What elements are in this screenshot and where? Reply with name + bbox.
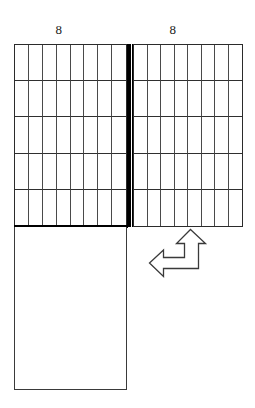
grid-cell[interactable] (43, 154, 57, 190)
grid-cell[interactable] (98, 190, 112, 226)
grid-cell[interactable] (112, 117, 126, 153)
grid-cell[interactable] (57, 117, 71, 153)
grid-cell[interactable] (175, 117, 189, 153)
up-left-double-arrow[interactable] (148, 228, 216, 282)
up-left-double-arrow-icon (148, 228, 216, 282)
grid-cell[interactable] (215, 190, 229, 226)
grid-cell[interactable] (29, 190, 43, 226)
grid-cell[interactable] (148, 154, 162, 190)
left-grid-panel[interactable] (14, 44, 127, 227)
grid-cell[interactable] (148, 81, 162, 117)
grid-cell[interactable] (175, 190, 189, 226)
grid-cell[interactable] (112, 45, 126, 81)
grid-cell[interactable] (43, 81, 57, 117)
grid-cell[interactable] (57, 190, 71, 226)
grid-cell[interactable] (134, 81, 148, 117)
grid-cell[interactable] (71, 81, 85, 117)
grid-cell[interactable] (148, 190, 162, 226)
figure-canvas: 8 8 (0, 0, 255, 408)
grid-cell[interactable] (98, 117, 112, 153)
grid-cell[interactable] (229, 154, 243, 190)
grid-cell[interactable] (112, 154, 126, 190)
grid-cell[interactable] (84, 190, 98, 226)
grid-cell[interactable] (71, 190, 85, 226)
grid-cell[interactable] (175, 81, 189, 117)
grid-cell[interactable] (134, 117, 148, 153)
grid-cell[interactable] (84, 117, 98, 153)
grid-cell[interactable] (161, 45, 175, 81)
grid-cell[interactable] (15, 154, 29, 190)
grid-cell[interactable] (215, 154, 229, 190)
grid-cell[interactable] (148, 45, 162, 81)
grid-cell[interactable] (15, 190, 29, 226)
grid-cell[interactable] (84, 45, 98, 81)
right-dimension-label: 8 (161, 22, 185, 38)
grid-cell[interactable] (29, 154, 43, 190)
grid-cell[interactable] (84, 81, 98, 117)
grid-cell[interactable] (43, 190, 57, 226)
grid-cell[interactable] (215, 81, 229, 117)
grid-cell[interactable] (161, 154, 175, 190)
grid-cell[interactable] (188, 117, 202, 153)
grid-cell[interactable] (134, 45, 148, 81)
grid-cell[interactable] (161, 81, 175, 117)
grid-cell[interactable] (71, 117, 85, 153)
grid-cell[interactable] (229, 190, 243, 226)
grid-cell[interactable] (15, 45, 29, 81)
grid-cell[interactable] (188, 154, 202, 190)
grid-cell[interactable] (29, 45, 43, 81)
grid-cell[interactable] (175, 45, 189, 81)
grid-cell[interactable] (15, 117, 29, 153)
grid-cell[interactable] (202, 81, 216, 117)
grid-cell[interactable] (71, 45, 85, 81)
right-grid-panel[interactable] (133, 44, 243, 227)
grid-cell[interactable] (188, 81, 202, 117)
bottom-blank-rectangle[interactable] (14, 227, 127, 390)
grid-cell[interactable] (202, 45, 216, 81)
grid-cell[interactable] (57, 154, 71, 190)
grid-cell[interactable] (229, 45, 243, 81)
grid-cell[interactable] (112, 190, 126, 226)
grid-cell[interactable] (202, 117, 216, 153)
grid-cell[interactable] (202, 190, 216, 226)
grid-cell[interactable] (188, 190, 202, 226)
grid-cell[interactable] (134, 154, 148, 190)
grid-cell[interactable] (71, 154, 85, 190)
grid-cell[interactable] (98, 81, 112, 117)
grid-cell[interactable] (43, 117, 57, 153)
grid-cell[interactable] (229, 81, 243, 117)
vertical-divider (127, 44, 131, 227)
grid-cell[interactable] (161, 117, 175, 153)
left-dimension-label: 8 (47, 22, 71, 38)
grid-cell[interactable] (188, 45, 202, 81)
grid-cell[interactable] (43, 45, 57, 81)
grid-cell[interactable] (29, 81, 43, 117)
grid-cell[interactable] (215, 45, 229, 81)
grid-cell[interactable] (98, 45, 112, 81)
grid-cell[interactable] (15, 81, 29, 117)
grid-cell[interactable] (29, 117, 43, 153)
grid-cell[interactable] (57, 81, 71, 117)
grid-cell[interactable] (148, 117, 162, 153)
grid-cell[interactable] (215, 117, 229, 153)
grid-cell[interactable] (175, 154, 189, 190)
grid-cell[interactable] (98, 154, 112, 190)
grid-cell[interactable] (112, 81, 126, 117)
grid-cell[interactable] (84, 154, 98, 190)
grid-cell[interactable] (229, 117, 243, 153)
grid-cell[interactable] (202, 154, 216, 190)
grid-cell[interactable] (134, 190, 148, 226)
grid-cell[interactable] (57, 45, 71, 81)
grid-cell[interactable] (161, 190, 175, 226)
